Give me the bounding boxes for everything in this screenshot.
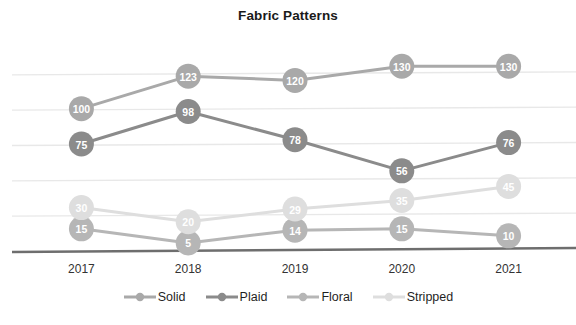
data-point-label: 100 [73,103,91,115]
axis-baseline [12,248,576,252]
data-point-label: 56 [396,165,408,177]
legend-item-solid[interactable]: Solid [123,290,186,304]
x-tick-label-2020: 2020 [388,262,415,276]
data-point-label: 76 [503,137,515,149]
x-tick-label-2021: 2021 [495,262,522,276]
x-tick-label-2019: 2019 [282,262,309,276]
chart-container: Fabric Patterns 100123120130130759878567… [0,0,576,325]
data-point-label: 15 [396,223,408,235]
legend-item-plaid[interactable]: Plaid [205,290,268,304]
data-point-label: 45 [503,181,515,193]
x-tick-label-2017: 2017 [68,262,95,276]
legend-label: Plaid [240,290,268,304]
legend-label: Stripped [407,290,454,304]
data-point-label: 29 [289,204,301,216]
x-axis-tick-labels: 20172018201920202021 [68,262,522,276]
legend-swatch-icon [286,290,320,304]
legend-label: Floral [321,290,352,304]
gridline [12,107,576,110]
data-point-label: 15 [76,223,88,235]
chart-legend: SolidPlaidFloralStripped [0,290,576,304]
gridline [12,178,576,181]
data-point-label: 35 [396,195,408,207]
x-axis-line [12,248,576,252]
plot-area: 1001231201301307598785676155141510302029… [0,0,576,290]
data-point-label: 75 [76,139,88,151]
data-point-label: 30 [76,202,88,214]
legend-item-stripped[interactable]: Stripped [372,290,454,304]
legend-swatch-icon [372,290,406,304]
data-point-label: 14 [289,225,301,237]
data-point-label: 130 [500,61,518,73]
x-tick-label-2018: 2018 [175,262,202,276]
data-point-label: 78 [289,134,301,146]
legend-swatch-icon [205,290,239,304]
legend-label: Solid [158,290,186,304]
series-markers: 1001231201301307598785676155141510302029… [69,54,521,256]
data-point-label: 98 [182,106,194,118]
data-point-label: 10 [503,230,515,242]
data-point-label: 120 [286,75,304,87]
data-point-label: 20 [182,216,194,228]
legend-item-floral[interactable]: Floral [286,290,352,304]
legend-swatch-icon [123,290,157,304]
data-point-label: 5 [185,237,191,249]
data-point-label: 130 [393,61,411,73]
data-point-label: 123 [179,71,197,83]
